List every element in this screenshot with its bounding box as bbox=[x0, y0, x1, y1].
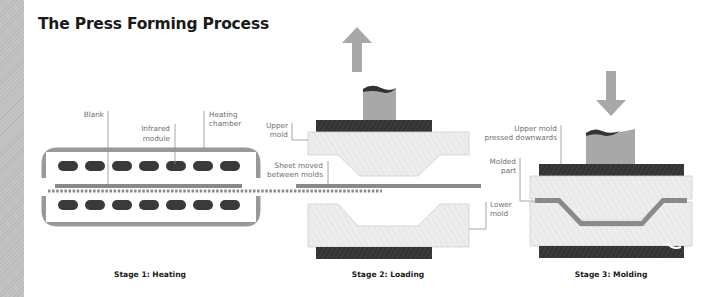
label-sheet-2: between molds bbox=[267, 170, 323, 179]
label-chamber-2: chamber bbox=[209, 119, 241, 128]
lower-mold bbox=[308, 204, 469, 247]
sheet-between-molds bbox=[296, 184, 481, 188]
label-blank: Blank bbox=[84, 110, 105, 119]
arrow-up-icon bbox=[342, 27, 372, 72]
lower-press-plate bbox=[316, 247, 432, 259]
label-molded-part-1: Molded bbox=[489, 157, 516, 166]
stage-molding: Upper mold pressed downwards Molded part… bbox=[485, 71, 692, 279]
label-upper-mold-2: mold bbox=[270, 130, 288, 139]
label-upper-mold-1: Upper bbox=[266, 121, 288, 130]
blank-sheet bbox=[55, 184, 242, 188]
upper-mold bbox=[308, 132, 469, 176]
label-pressed-1: Upper mold bbox=[514, 124, 557, 133]
stage-2-caption: Stage 2: Loading bbox=[352, 270, 424, 279]
label-sheet-1: Sheet moved bbox=[275, 161, 323, 170]
label-lower-mold-2: mold bbox=[490, 209, 508, 218]
label-infrared-2: module bbox=[143, 134, 171, 143]
label-molded-part-2: part bbox=[501, 166, 516, 175]
upper-press-plate bbox=[316, 120, 432, 132]
press-forming-diagram: Blank Infrared module Heating chamber St… bbox=[0, 0, 728, 297]
upper-press-plate bbox=[539, 164, 684, 176]
label-infrared-1: Infrared bbox=[141, 124, 170, 133]
arrow-down-icon bbox=[596, 71, 626, 116]
stage-loading: Upper mold Sheet moved between molds Low… bbox=[266, 27, 512, 279]
label-lower-mold-1: Lower bbox=[490, 200, 512, 209]
stage-3-caption: Stage 3: Molding bbox=[575, 270, 648, 279]
label-chamber-1: Heating bbox=[209, 110, 238, 119]
label-pressed-2: pressed downwards bbox=[485, 133, 558, 142]
lower-press-plate bbox=[539, 246, 684, 258]
stage-1-caption: Stage 1: Heating bbox=[114, 270, 186, 279]
